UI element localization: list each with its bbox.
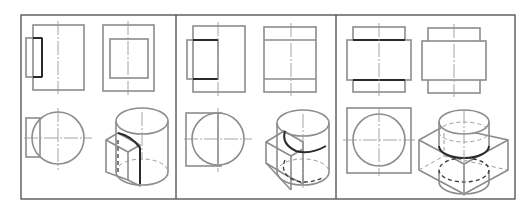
panel-3 [343,23,508,196]
panel-2-side-view [264,23,316,96]
panel-2-front-view [187,22,245,96]
panel-3-side-view [422,24,486,97]
panel-2 [184,22,329,190]
panel-1-front-view [26,21,84,94]
panel-3-front-view [347,23,411,96]
panel-1-isometric-view [106,108,168,186]
panel-2-top-view [184,108,252,172]
panel-1 [24,21,168,186]
panel-3-isometric-view [419,110,508,196]
panel-1-top-view [24,108,92,170]
panel-2-isometric-view [266,110,329,190]
projection-diagram [0,0,532,212]
panel-3-top-view [343,108,415,176]
panel-1-side-view [103,21,154,95]
